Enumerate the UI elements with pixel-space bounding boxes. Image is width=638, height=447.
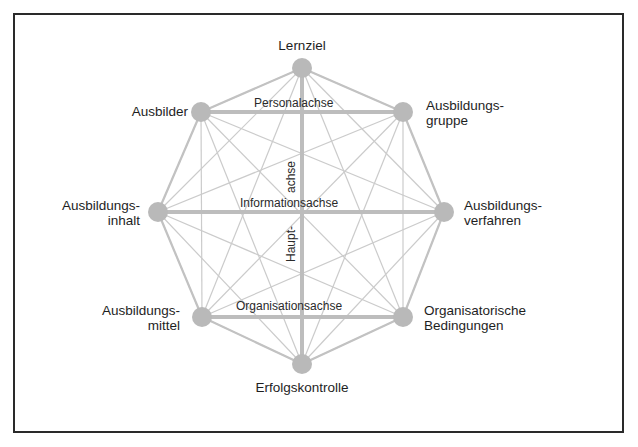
label-line: mittel — [80, 318, 180, 333]
label-line: Ausbildungs- — [40, 198, 140, 213]
label-line: verfahren — [464, 213, 542, 228]
node-label-lernziel: Lernziel — [272, 38, 332, 53]
node-label-ausbildungsinhalt: Ausbildungs- inhalt — [40, 198, 140, 228]
node-ausbildungsgruppe — [393, 102, 413, 122]
axis-label-hauptachse-part2: achse — [284, 161, 298, 193]
node-label-ausbildungsgruppe: Ausbildungs- gruppe — [426, 98, 504, 128]
node-label-ausbildungsmittel: Ausbildungs- mittel — [80, 303, 180, 333]
node-organisatorische-bedingungen — [393, 307, 413, 327]
node-label-ausbildungsverfahren: Ausbildungs- verfahren — [464, 198, 542, 228]
label-line: gruppe — [426, 113, 504, 128]
axis-label-organisationsachse: Organisationsachse — [236, 300, 342, 313]
node-ausbilder — [191, 102, 211, 122]
perimeter-line — [202, 317, 302, 364]
axis-label-hauptachse-part1: Haupt- — [284, 226, 298, 262]
node-erfolgskontrolle — [292, 354, 312, 374]
label-line: Bedingungen — [424, 318, 526, 333]
label-line: Organisatorische — [424, 303, 526, 318]
label-line: Ausbildungs- — [464, 198, 542, 213]
perimeter-line — [302, 317, 403, 364]
connection-line — [302, 112, 403, 364]
connection-line — [201, 112, 202, 317]
label-line: inhalt — [40, 213, 140, 228]
connection-line — [302, 68, 444, 212]
node-label-ausbilder: Ausbilder — [108, 104, 188, 119]
node-ausbildungsverfahren — [434, 202, 454, 222]
connection-line — [158, 212, 302, 364]
connection-line — [158, 68, 302, 212]
node-ausbildungsinhalt — [148, 202, 168, 222]
label-line: Ausbildungs- — [80, 303, 180, 318]
node-label-organisatorische-bedingungen: Organisatorische Bedingungen — [424, 303, 526, 333]
axis-label-informationsachse: Informationsachse — [240, 197, 338, 210]
axis-label-personalachse: Personalachse — [254, 97, 333, 110]
node-lernziel — [292, 58, 312, 78]
connection-line — [302, 212, 444, 364]
node-ausbildungsmittel — [192, 307, 212, 327]
node-label-erfolgskontrolle: Erfolgskontrolle — [242, 380, 362, 395]
label-line: Ausbildungs- — [426, 98, 504, 113]
